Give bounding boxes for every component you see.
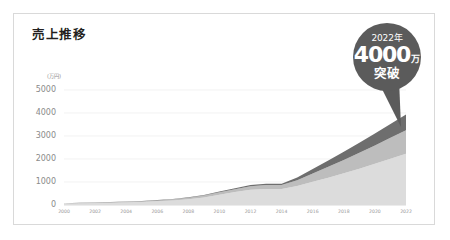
y-axis-tick: 0 bbox=[20, 201, 56, 209]
x-axis-tick: 2010 bbox=[202, 210, 236, 215]
callout-value-row: 4000 万 bbox=[354, 44, 420, 66]
x-axis-tick: 2008 bbox=[171, 210, 205, 215]
x-axis-tick: 2000 bbox=[47, 210, 81, 215]
y-axis-tick: 4000 bbox=[20, 109, 56, 117]
x-axis-tick: 2022 bbox=[389, 210, 423, 215]
x-axis-tick: 2006 bbox=[140, 210, 174, 215]
callout-value: 4000 bbox=[354, 44, 410, 66]
y-axis-tick: 1000 bbox=[20, 178, 56, 186]
x-axis-tick: 2018 bbox=[327, 210, 361, 215]
x-axis-tick: 2020 bbox=[358, 210, 392, 215]
x-axis-tick: 2004 bbox=[109, 210, 143, 215]
screenshot-root: 売上推移 (万円) 010002000300040005000200020022… bbox=[0, 0, 450, 240]
y-axis-tick: 3000 bbox=[20, 132, 56, 140]
x-axis-tick: 2014 bbox=[265, 210, 299, 215]
y-axis-tick: 5000 bbox=[20, 86, 56, 94]
x-axis-tick: 2016 bbox=[296, 210, 330, 215]
sales-trend-card: 売上推移 (万円) 010002000300040005000200020022… bbox=[13, 13, 435, 225]
callout-breakthrough: 突破 bbox=[374, 68, 401, 81]
milestone-callout: 2022年 4000 万 突破 bbox=[353, 23, 421, 91]
callout-unit: 万 bbox=[411, 55, 420, 64]
x-axis-tick: 2002 bbox=[78, 210, 112, 215]
y-axis-unit-label: (万円) bbox=[47, 72, 61, 79]
x-axis-tick: 2012 bbox=[234, 210, 268, 215]
y-axis-tick: 2000 bbox=[20, 155, 56, 163]
callout-content: 2022年 4000 万 突破 bbox=[353, 23, 421, 91]
